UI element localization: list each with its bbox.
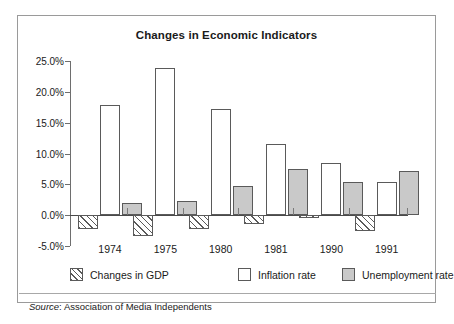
baseline-end-cap — [407, 208, 408, 215]
y-tick — [65, 246, 70, 247]
bar-1991-gdp — [355, 215, 375, 231]
y-axis-label: 15.0% — [36, 117, 64, 128]
source-separator: : — [59, 301, 62, 312]
legend-item-inflation[interactable]: Inflation rate — [238, 268, 316, 281]
x-axis-label-1981: 1981 — [264, 243, 287, 255]
bar-1981-inflation — [266, 144, 286, 215]
y-axis-line — [70, 61, 71, 246]
y-axis-label: 0.0% — [41, 210, 64, 221]
bar-1980-gdp — [189, 215, 209, 229]
chart-frame: Changes in Economic Indicators 25.0%20.0… — [17, 15, 436, 303]
legend-item-gdp[interactable]: Changes in GDP — [70, 268, 169, 281]
source-text: Association of Media Independents — [64, 301, 212, 312]
bar-1980-inflation — [211, 109, 231, 215]
chart-title: Changes in Economic Indicators — [18, 29, 435, 41]
bar-1991-inflation — [377, 182, 397, 215]
y-tick — [65, 61, 70, 62]
bar-1991-unemployment — [399, 171, 419, 215]
bar-1990-unemployment — [343, 182, 363, 215]
legend-item-unemployment[interactable]: Unemployment rate — [342, 268, 454, 281]
y-tick — [65, 154, 70, 155]
y-axis-label: 10.0% — [36, 148, 64, 159]
bar-1981-unemployment — [288, 169, 308, 215]
source-note: Source: Association of Media Independent… — [29, 301, 212, 312]
bar-1974-inflation — [100, 105, 120, 215]
source-prefix: Source — [29, 301, 59, 312]
chart-legend: Changes in GDPInflation rateUnemployment… — [70, 268, 440, 286]
y-axis-label: -5.0% — [38, 241, 64, 252]
bar-1975-inflation — [155, 68, 175, 215]
bar-1975-gdp — [133, 215, 153, 235]
legend-swatch-gdp-icon — [70, 268, 83, 281]
category-separator — [293, 208, 294, 215]
bar-1975-unemployment — [177, 201, 197, 215]
legend-label: Inflation rate — [258, 269, 316, 281]
bar-1990-gdp — [299, 215, 319, 217]
y-tick — [65, 92, 70, 93]
bar-1981-gdp — [244, 215, 264, 224]
legend-label: Changes in GDP — [90, 269, 169, 281]
bar-1974-unemployment — [122, 203, 142, 215]
x-axis-label-1991: 1991 — [375, 243, 398, 255]
legend-label: Unemployment rate — [362, 269, 454, 281]
legend-swatch-unemployment-icon — [342, 268, 355, 281]
bar-1990-inflation — [321, 163, 341, 215]
category-separator — [183, 208, 184, 215]
category-separator — [127, 208, 128, 215]
y-tick — [65, 123, 70, 124]
x-axis-label-1980: 1980 — [209, 243, 232, 255]
y-axis-label: 25.0% — [36, 56, 64, 67]
y-axis-label: 5.0% — [41, 179, 64, 190]
x-axis-label-1974: 1974 — [98, 243, 121, 255]
plot-area: 25.0%20.0%15.0%10.0%5.0%0.0%-5.0% 197419… — [70, 61, 402, 246]
x-axis-label-1975: 1975 — [154, 243, 177, 255]
bar-1974-gdp — [78, 215, 98, 229]
source-divider — [19, 293, 436, 294]
category-separator — [349, 208, 350, 215]
y-tick — [65, 184, 70, 185]
x-axis-label-1990: 1990 — [320, 243, 343, 255]
y-tick — [65, 215, 70, 216]
y-axis-label: 20.0% — [36, 86, 64, 97]
category-separator — [238, 208, 239, 215]
bar-1980-unemployment — [233, 186, 253, 215]
legend-swatch-inflation-icon — [238, 268, 251, 281]
